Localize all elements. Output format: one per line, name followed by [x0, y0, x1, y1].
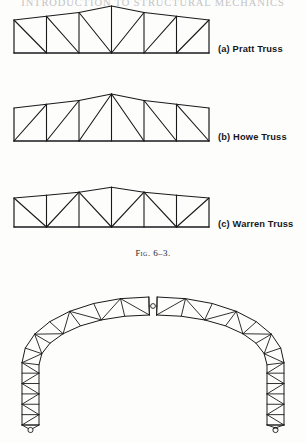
pratt-top-chord-segment — [14, 16, 47, 20]
warren-diagonal — [112, 192, 145, 227]
arch-diagonal-L — [22, 404, 39, 414]
pratt-diagonal — [14, 20, 47, 53]
pratt-top-chord-segment — [177, 16, 210, 20]
truss-diagrams-layer — [0, 0, 306, 250]
arch-inner-chord-L — [39, 315, 149, 425]
pratt-diagonal — [47, 16, 80, 53]
arch-post-L — [50, 322, 63, 334]
arch-diagonal-R — [264, 354, 284, 363]
warren-diagonal — [79, 192, 112, 227]
pratt-diagonal — [144, 16, 177, 53]
howe-diagonal — [47, 101, 80, 142]
arch-post-R — [264, 348, 281, 354]
arch-diagonal-L — [22, 354, 42, 363]
figure-caption-prefix: Fig. — [135, 249, 150, 258]
howe-diagonal — [112, 94, 145, 141]
arch-diagonal-L — [22, 415, 39, 425]
arch-support-taper-R — [267, 425, 278, 429]
arch-diagonal-L — [22, 394, 39, 404]
arch-diagonal-R — [267, 404, 284, 414]
warren-diagonal — [177, 198, 210, 227]
arch-inner-chord-R — [157, 315, 267, 425]
arch-diagonal-R — [205, 311, 237, 320]
arch-post-L — [35, 334, 50, 343]
howe-top-chord-segment — [177, 104, 210, 108]
arch-support-taper-L — [33, 425, 39, 429]
warren-diagonal — [144, 192, 177, 227]
pratt-top-chord-segment — [112, 6, 145, 13]
pratt-diagonal — [79, 13, 112, 54]
arch-diagonal-L — [121, 299, 150, 315]
arch-diagonal-R — [157, 299, 186, 315]
warren-top-chord-segment — [112, 187, 145, 192]
howe-top-chord-segment — [47, 101, 80, 105]
pratt-diagonal — [112, 13, 145, 54]
arch-post-R — [256, 334, 271, 343]
arch-post-L — [121, 299, 125, 317]
arch-diagonal-R — [264, 334, 271, 354]
arch-diagonal-L — [22, 373, 39, 383]
arch-support-taper-L — [22, 425, 28, 429]
arch-diagonal-R — [267, 415, 284, 425]
warren-top-chord-segment — [47, 192, 80, 195]
warren-top-chord-segment — [14, 195, 47, 198]
pratt-top-chord-segment — [47, 13, 80, 17]
howe-top-chord-segment — [144, 101, 177, 105]
howe-top-chord-segment — [79, 94, 112, 101]
warren-diagonal — [14, 198, 47, 227]
arch-diagonal-R — [267, 394, 284, 404]
warren-top-chord-segment — [144, 192, 177, 195]
howe-diagonal — [177, 104, 210, 141]
pratt-top-chord-segment — [144, 13, 177, 17]
arch-post-R — [205, 303, 213, 319]
howe-top-chord-segment — [112, 94, 145, 101]
arch-post-R — [181, 299, 185, 317]
howe-diagonal — [144, 101, 177, 142]
arch-post-L — [25, 348, 42, 354]
arch-post-R — [243, 322, 256, 334]
arch-diagonal-L — [35, 334, 42, 354]
warren-diagonal — [47, 192, 80, 227]
arch-diagonal-L — [22, 384, 39, 394]
warren-top-chord-segment — [79, 187, 112, 192]
figure-caption: Fig. 6–3. — [0, 248, 306, 258]
textbook-page: INTRODUCTION TO STRUCTURAL MECHANICS (a)… — [0, 0, 306, 443]
arch-diagonal-R — [267, 384, 284, 394]
arch-support-pin-L — [28, 427, 33, 432]
pratt-diagonal — [177, 20, 210, 53]
howe-top-chord-segment — [14, 104, 47, 108]
arch-post-L — [94, 303, 102, 319]
howe-diagonal — [79, 94, 112, 141]
arch-truss-figure — [0, 262, 306, 443]
arch-diagonal-R — [267, 373, 284, 383]
arch-diagonal-L — [70, 311, 102, 320]
pratt-top-chord-segment — [79, 6, 112, 13]
howe-diagonal — [14, 104, 47, 141]
three-hinged-arch-truss-diagram — [0, 262, 306, 443]
figure-caption-number: 6–3. — [153, 248, 170, 258]
warren-top-chord-segment — [177, 195, 210, 198]
arch-crown-hinge — [151, 304, 156, 309]
